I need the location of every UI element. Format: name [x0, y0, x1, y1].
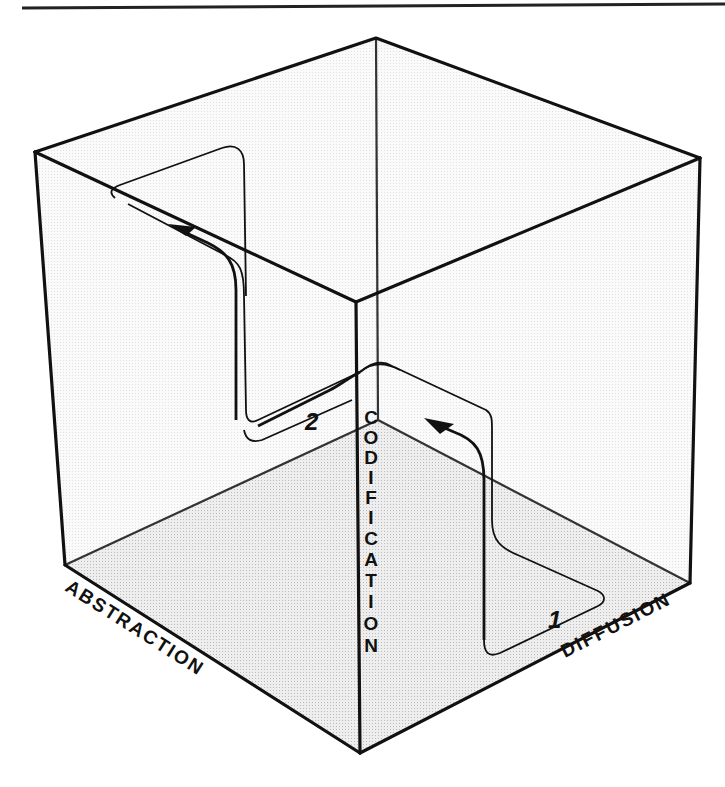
svg-text:C: C: [364, 407, 380, 428]
svg-text:I: I: [368, 591, 375, 612]
axis-label-codification: C O D I F I C A T I O N: [364, 407, 381, 656]
svg-text:O: O: [364, 427, 381, 448]
information-space-cube: ABSTRACTION DIFFUSION C O D I F I C A T …: [0, 0, 725, 787]
svg-text:F: F: [365, 487, 379, 508]
svg-text:O: O: [364, 613, 381, 634]
svg-text:N: N: [364, 635, 380, 656]
path-label-2: 2: [304, 408, 319, 435]
svg-text:I: I: [368, 467, 375, 488]
svg-text:I: I: [368, 507, 375, 528]
svg-text:C: C: [364, 528, 380, 549]
svg-text:A: A: [364, 549, 380, 570]
top-rule: [22, 4, 725, 8]
svg-text:T: T: [365, 570, 379, 591]
path-label-1: 1: [548, 606, 561, 633]
svg-text:D: D: [364, 447, 380, 468]
